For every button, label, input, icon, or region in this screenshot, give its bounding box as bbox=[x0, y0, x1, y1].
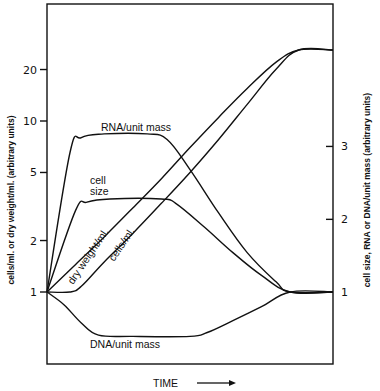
series-rna-unit-mass bbox=[47, 133, 333, 293]
right-axis-title: cell size, RNA or DNA/unit mass (arbitra… bbox=[362, 93, 372, 287]
x-axis-arrow bbox=[197, 380, 236, 386]
left-axis-title: cells/ml. or dry weight/ml. (arbitrary u… bbox=[6, 115, 16, 284]
right-tick-label: 3 bbox=[341, 140, 348, 153]
left-tick-label: 10 bbox=[23, 115, 37, 128]
left-tick-label: 20 bbox=[23, 64, 37, 77]
annotation-dna: DNA/unit mass bbox=[90, 338, 160, 350]
left-tick-label: 2 bbox=[30, 235, 37, 248]
left-axis-ticks: 1251020 bbox=[23, 64, 47, 299]
right-tick-label: 1 bbox=[341, 286, 348, 299]
left-tick-label: 5 bbox=[30, 166, 37, 179]
series-dna-unit-mass bbox=[47, 291, 333, 337]
right-tick-label: 2 bbox=[341, 213, 348, 226]
annotation-rna: RNA/unit mass bbox=[101, 121, 171, 133]
x-axis-label: TIME bbox=[153, 377, 178, 389]
growth-chart: 1251020 123 RNA/unit mass cell size dry … bbox=[0, 0, 380, 391]
annotation-size: size bbox=[90, 185, 109, 197]
annotation-dry-weight: dry weight/ml. bbox=[65, 226, 111, 286]
right-axis-ticks: 123 bbox=[326, 140, 348, 299]
left-tick-label: 1 bbox=[30, 286, 37, 299]
